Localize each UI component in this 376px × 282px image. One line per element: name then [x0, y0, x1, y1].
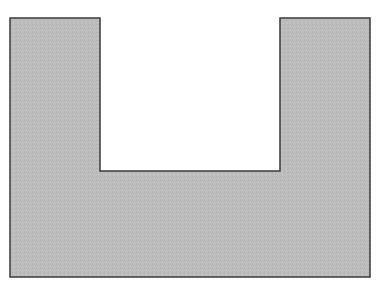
diagram-canvas	[0, 0, 376, 282]
u-shaped-polygon	[10, 18, 370, 277]
